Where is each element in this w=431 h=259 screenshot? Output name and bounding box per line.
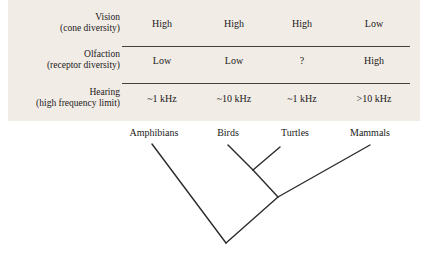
cell-hearing-mammals: >10 kHz xyxy=(338,93,410,104)
cell-olfaction-mammals: High xyxy=(338,55,410,66)
cell-vision-birds: High xyxy=(198,18,270,29)
cell-vision-mammals: Low xyxy=(338,18,410,29)
branch-amphibians xyxy=(152,144,226,243)
row-label-hearing: Hearing (high frequency limit) xyxy=(8,87,120,109)
cell-hearing-birds: ~10 kHz xyxy=(198,93,270,104)
row-label-olfaction-line1: Olfaction xyxy=(8,49,120,60)
branch-node2-to-node1 xyxy=(253,170,278,197)
row-label-hearing-line1: Hearing xyxy=(8,87,120,98)
branch-birds xyxy=(228,145,253,170)
branch-mammals xyxy=(278,145,370,197)
table-rule-1 xyxy=(122,46,410,47)
table-rule-2 xyxy=(122,83,410,84)
row-label-hearing-line2: (high frequency limit) xyxy=(8,98,120,109)
cell-hearing-amphibians: ~1 kHz xyxy=(126,93,198,104)
trait-table-panel: Vision (cone diversity) High High High L… xyxy=(8,0,420,121)
cell-olfaction-amphibians: Low xyxy=(126,55,198,66)
cell-hearing-turtles: ~1 kHz xyxy=(266,93,338,104)
cell-vision-amphibians: High xyxy=(126,18,198,29)
branch-root-to-node2 xyxy=(226,197,278,243)
taxon-label-mammals: Mammals xyxy=(325,127,415,138)
row-label-vision-line1: Vision xyxy=(8,12,120,23)
row-label-vision: Vision (cone diversity) xyxy=(8,12,120,34)
cell-olfaction-turtles: ? xyxy=(266,55,338,66)
figure-root: Vision (cone diversity) High High High L… xyxy=(0,0,431,259)
cell-olfaction-birds: Low xyxy=(198,55,270,66)
cell-vision-turtles: High xyxy=(266,18,338,29)
row-label-olfaction: Olfaction (receptor diversity) xyxy=(8,49,120,71)
row-label-olfaction-line2: (receptor diversity) xyxy=(8,60,120,71)
row-label-vision-line2: (cone diversity) xyxy=(8,23,120,34)
branch-turtles xyxy=(253,147,280,170)
